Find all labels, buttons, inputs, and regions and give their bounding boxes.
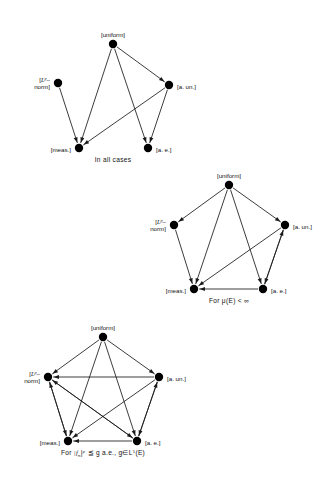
diagram-2-edge-uniform-to-ae-head — [258, 278, 262, 284]
diagram-2-node-label-aun: [a. un.] — [293, 223, 312, 230]
diagram-3-node-label-aun: [a. un.] — [167, 375, 186, 382]
diagram-2-edge-uniform-to-meas-head — [196, 278, 200, 284]
diagram-2-node-label-uniform: [uniform] — [217, 172, 241, 179]
diagram-3-node-meas[interactable] — [64, 437, 72, 445]
diagram-1-node-label-uniform: [uniform] — [101, 31, 125, 38]
diagram-3-node-label-meas: [meas.] — [40, 439, 61, 446]
diagram-2-node-ae[interactable] — [259, 285, 267, 293]
diagram-3-edge-uniform-to-ae-head — [132, 430, 136, 436]
diagram-2-edge-uniform-to-meas-line — [196, 190, 227, 284]
diagram-1-node-meas[interactable] — [75, 144, 83, 152]
diagram-1-edge-aun-to-ae-line — [150, 90, 168, 143]
diagram-3-node-uniform[interactable] — [99, 333, 107, 341]
diagram-3-node-lp[interactable] — [44, 373, 52, 381]
diagram-2-edge-ae-to-meas-head — [200, 287, 205, 291]
diagram-1-node-label-ae: [a. e.] — [156, 146, 172, 153]
diagram-3-edge-lp-to-meas-head — [63, 430, 67, 436]
diagram-3-edge-aun-to-meas-line — [73, 380, 155, 438]
diagram-2-edge-uniform-to-lp-head — [179, 217, 185, 222]
diagram-2-edge-uniform-to-lp-line — [179, 188, 225, 222]
diagram-2-edge-uniform-to-aun-line — [233, 188, 280, 222]
diagram-2-edge-uniform-to-aun-head — [275, 217, 281, 222]
diagram-1-edge-uniform-to-ae-head — [143, 137, 147, 143]
diagram-3-edge-uniform-to-meas-line — [70, 342, 101, 436]
node-label-lp-line2-2: norm] — [24, 377, 40, 384]
diagram-1: [uniform][Lp–norm][a. un.][meas.][a. e.]… — [34, 31, 196, 163]
diagram-1-caption: In all cases — [95, 156, 132, 163]
diagram-3-edge-ae-to-meas-head — [74, 439, 79, 443]
diagram-1-edge-uniform-to-aun-head — [159, 77, 165, 82]
diagram-3-edge-uniform-to-meas-head — [70, 430, 74, 436]
diagram-1-node-label-aun: [a. un.] — [177, 83, 196, 90]
diagram-2-node-uniform[interactable] — [225, 181, 233, 189]
diagram-1-node-lp[interactable] — [54, 79, 62, 87]
diagram-2-node-label-ae: [a. e.] — [271, 287, 287, 294]
node-label-lp-line1-1: [Lp– — [155, 218, 166, 225]
diagram-2-caption: For μ(E) < ∞ — [209, 297, 249, 305]
diagram-3-edge-ae-to-aun-line — [139, 382, 157, 436]
diagram-1-edge-aun-to-ae-head — [150, 137, 154, 143]
diagram-2-edges — [176, 188, 284, 291]
diagram-3-caption: For |fn|p ≦ g a.e., g∈L1(E) — [61, 449, 145, 458]
diagram-3-edge-uniform-to-lp-line — [53, 340, 99, 374]
diagram-2-node-meas[interactable] — [190, 285, 198, 293]
figure-canvas: [uniform][Lp–norm][a. un.][meas.][a. e.]… — [0, 0, 335, 480]
diagram-3: [uniform][Lp–norm][a. un.][meas.][a. e.]… — [24, 324, 186, 458]
diagram-3-edge-uniform-to-ae-line — [105, 342, 136, 436]
diagram-3-node-aun[interactable] — [155, 373, 163, 381]
diagram-3-edge-lp-to-ae-head — [127, 433, 133, 438]
diagram-1-node-ae[interactable] — [144, 144, 152, 152]
diagram-2-edge-uniform-to-ae-line — [231, 190, 262, 284]
diagram-3-edge-uniform-to-aun-head — [149, 369, 155, 374]
diagram-2-node-label-meas: [meas.] — [166, 287, 187, 294]
diagram-2-node-aun[interactable] — [281, 221, 289, 229]
convergence-implication-figure: [uniform][Lp–norm][a. un.][meas.][a. e.]… — [0, 0, 335, 480]
diagram-3-node-ae[interactable] — [133, 437, 141, 445]
diagram-2-node-lp[interactable] — [170, 221, 178, 229]
diagram-3-edge-aun-to-meas-head — [73, 433, 79, 438]
diagram-1-edge-lp-to-meas-head — [74, 137, 78, 143]
diagram-3-edge-aun-to-lp-head — [54, 375, 59, 379]
diagram-2-edge-lp-to-meas-head — [189, 278, 193, 284]
diagram-3-node-label-ae: [a. e.] — [145, 439, 161, 446]
diagram-1-node-uniform[interactable] — [109, 40, 117, 48]
diagram-2-edge-lp-to-meas-line — [176, 230, 193, 284]
diagram-1-edge-uniform-to-aun-line — [117, 47, 164, 82]
diagram-2: [uniform][Lp–norm][a. un.][meas.][a. e.]… — [150, 172, 312, 305]
diagram-1-edge-lp-to-meas-line — [60, 88, 78, 143]
diagram-3-node-label-uniform: [uniform] — [91, 324, 115, 331]
diagram-2-edge-ae-to-aun-head — [280, 230, 284, 236]
diagram-1-edge-aun-to-meas-head — [84, 140, 90, 145]
node-label-lp-line2-0: norm] — [34, 83, 50, 90]
diagram-2-edge-aun-to-meas-head — [199, 281, 205, 286]
diagram-2-edge-aun-to-meas-line — [199, 228, 281, 286]
diagram-3-edge-uniform-to-lp-head — [53, 369, 59, 374]
diagram-3-edge-ae-to-aun-head — [154, 382, 158, 388]
node-label-lp-line2-1: norm] — [150, 225, 166, 232]
diagram-2-edge-ae-to-aun-line — [265, 230, 283, 284]
diagram-1-node-aun[interactable] — [165, 81, 173, 89]
diagram-3-edge-uniform-to-aun-line — [107, 340, 154, 374]
diagram-1-edges — [60, 47, 168, 145]
diagram-1-edge-uniform-to-meas-head — [81, 137, 85, 143]
node-label-lp-line1-2: [Lp– — [29, 370, 40, 377]
diagram-3-edges — [49, 340, 157, 443]
node-label-lp-line1-0: [Lp– — [39, 76, 50, 83]
diagram-3-edge-lp-to-meas-line — [50, 382, 67, 436]
diagram-1-edge-uniform-to-ae-line — [115, 49, 146, 143]
diagram-1-node-label-meas: [meas.] — [51, 146, 72, 153]
